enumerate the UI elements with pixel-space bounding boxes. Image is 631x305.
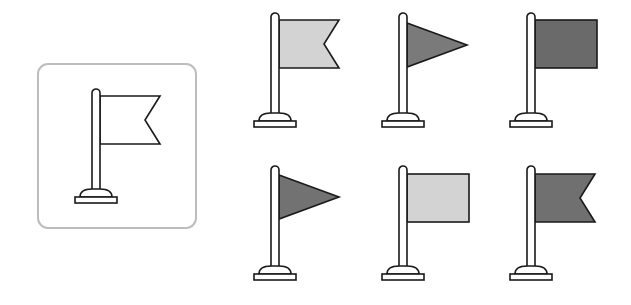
flags-canvas bbox=[0, 0, 631, 305]
option-flag-swallowtail-dark-icon[interactable] bbox=[510, 166, 595, 280]
option-flag-rectangle-dark-icon[interactable] bbox=[510, 13, 597, 127]
reference-flag-icon bbox=[75, 89, 160, 203]
option-flag-swallowtail-light-icon[interactable] bbox=[254, 13, 339, 127]
option-flag-rectangle-light-icon[interactable] bbox=[382, 166, 469, 280]
option-flag-triangle-dark-icon[interactable] bbox=[382, 13, 467, 127]
option-flag-triangle-dark-icon-2[interactable] bbox=[254, 166, 339, 280]
